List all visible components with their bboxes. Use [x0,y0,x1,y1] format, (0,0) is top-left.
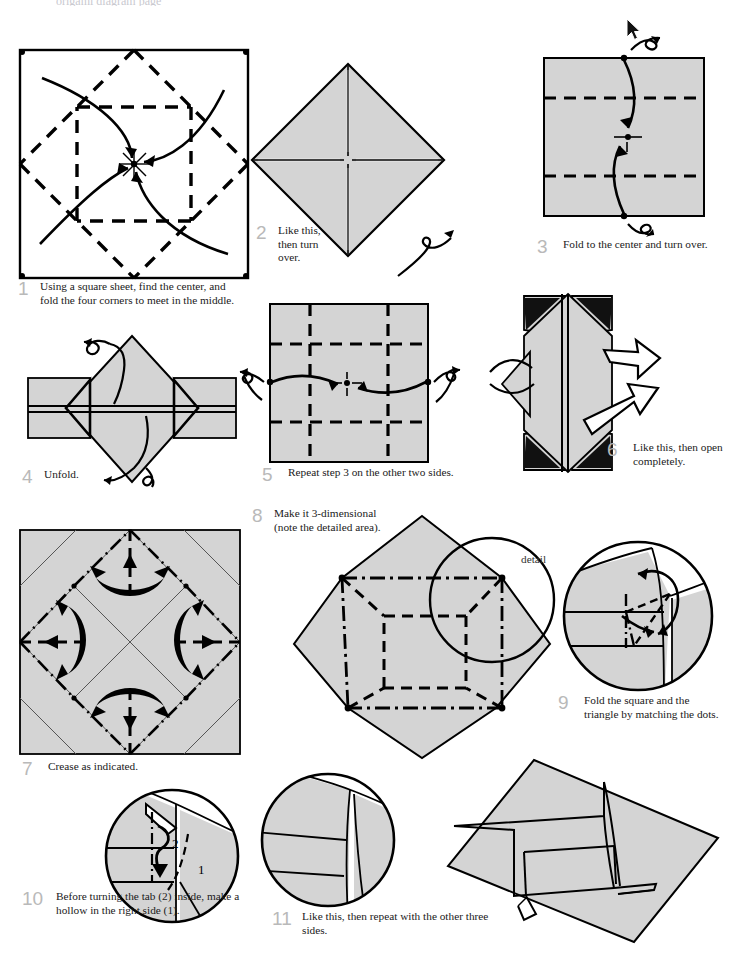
step-text-8: Make it 3-dimensional (note the detailed… [274,507,384,534]
step-text-5: Repeat step 3 on the other two sides. [288,466,492,480]
caption-step-3: 3 Fold to the center and turn over. [537,238,717,252]
figure-step-1 [18,48,250,280]
label-hollow-1: 1 [198,862,205,877]
step-number-10: 10 [22,889,43,908]
step-text-3: Fold to the center and turn over. [563,238,717,252]
caption-step-5: 5 Repeat step 3 on the other two sides. [262,466,492,480]
figure-step-4 [22,330,242,490]
figure-step-7 [18,528,242,756]
step-number-9: 9 [558,693,569,712]
caption-step-10: 10 Before turning the tab (2) inside, ma… [22,890,272,917]
figure-step-9 [560,538,720,698]
step-number-5: 5 [262,465,273,484]
step-number-4: 4 [22,467,33,486]
step-text-10: Before turning the tab (2) inside, make … [56,890,272,917]
label-tab-2: 2 [172,836,179,851]
caption-step-9: 9 Fold the square and the triangle by ma… [558,694,726,721]
caption-step-7: 7 Crease as indicated. [22,760,222,774]
step-number-6: 6 [607,440,618,459]
step-text-6: Like this, then open completely. [633,441,731,468]
step-text-1: Using a square sheet, find the center, a… [40,280,246,307]
step-number-8: 8 [252,506,263,525]
step-text-2: Like this, then turn over. [278,224,336,265]
step-text-7: Crease as indicated. [48,760,222,774]
detail-callout-label: detail [521,553,546,565]
figure-step-5 [248,300,468,470]
caption-step-2: 2 Like this, then turn over. [256,224,336,265]
step-text-4: Unfold. [44,468,142,482]
step-number-7: 7 [22,759,33,778]
caption-step-4: 4 Unfold. [22,468,142,482]
figure-final-model [438,756,728,946]
origami-instruction-page: origami diagram page [0,0,731,975]
caption-step-6: 6 Like this, then open completely. [607,441,731,468]
step-number-1: 1 [18,279,29,298]
figure-step-11 [258,770,398,910]
caption-step-1: 1 Using a square sheet, find the center,… [18,280,246,307]
caption-step-8: 8 Make it 3-dimensional (note the detail… [252,507,384,534]
figure-step-3 [536,36,726,236]
step-number-3: 3 [537,237,548,256]
cropped-header-text: origami diagram page [56,0,356,6]
figure-step-8 [288,512,554,762]
step-number-11: 11 [272,909,292,928]
step-text-9: Fold the square and the triangle by matc… [584,694,726,721]
step-number-2: 2 [256,223,267,242]
